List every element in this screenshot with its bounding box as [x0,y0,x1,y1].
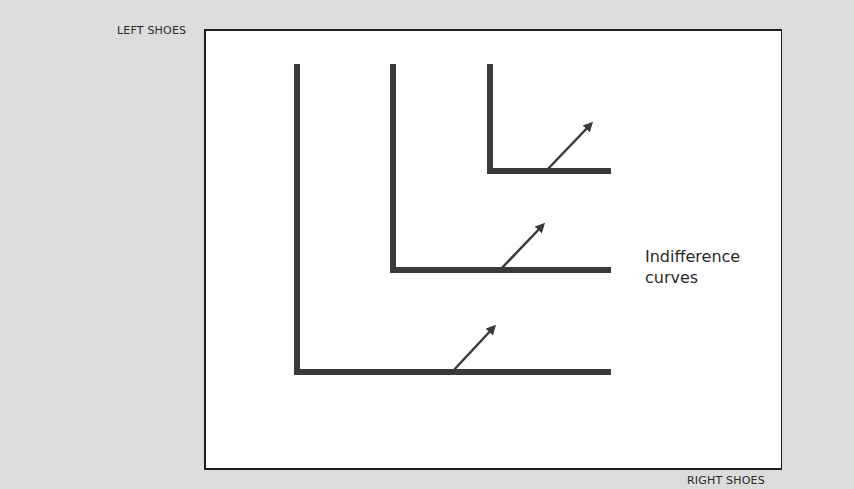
annotation-line-2: curves [645,267,740,288]
indifference-curves-label: Indifference curves [645,246,740,288]
indifference-curve-2 [393,64,611,270]
indifference-curve-3 [490,64,611,171]
indifference-curve-1 [297,64,611,372]
preference-arrow-icon [500,225,543,270]
annotation-line-1: Indifference [645,246,740,267]
preference-arrow-icon [546,124,591,171]
indifference-curves-plot [0,0,854,489]
preference-arrow-icon [452,327,494,372]
